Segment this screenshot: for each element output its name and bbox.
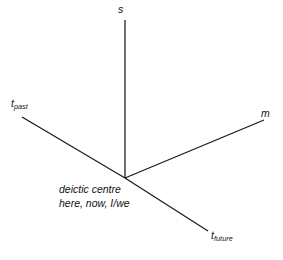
axis-label-t-future: tfuture — [211, 230, 233, 241]
axis-label-t-future-subscript: future — [214, 234, 233, 243]
axis-label-t-past-subscript: past — [14, 102, 28, 111]
axis-label-m: m — [261, 108, 270, 119]
axes-group — [0, 0, 283, 260]
deictic-centre-caption-line2: here, now, I/we — [59, 197, 130, 211]
deictic-centre-diagram: s m tpast tfuture deictic centre here, n… — [0, 0, 283, 260]
axis-line-m — [125, 120, 264, 178]
axis-label-m-text: m — [261, 107, 270, 119]
axis-line-t-future — [125, 178, 208, 231]
axis-line-t-past — [22, 117, 125, 178]
deictic-centre-caption: deictic centre here, now, I/we — [59, 183, 130, 210]
deictic-centre-caption-line1: deictic centre — [59, 183, 130, 197]
axis-label-s: s — [118, 4, 123, 15]
axis-label-s-text: s — [118, 3, 123, 15]
axis-label-t-past: tpast — [11, 98, 28, 109]
